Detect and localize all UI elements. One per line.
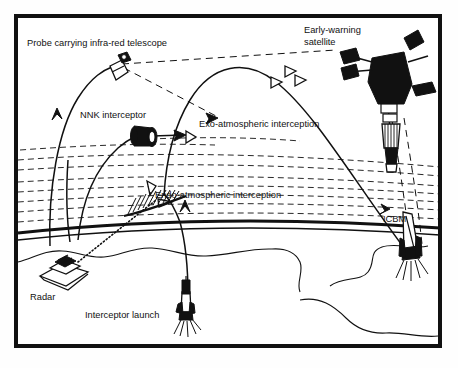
label-radar: Radar: [30, 292, 55, 302]
nnk-interceptor: [131, 126, 158, 147]
label-probe: Probe carrying infra-red telescope: [27, 38, 167, 48]
label-satellite-line2: satellite: [304, 37, 336, 47]
label-exo-interception: Exo-atmospheric interception: [199, 119, 319, 129]
missile-defence-diagram: Probe carrying infra-red telescope NNK i…: [0, 0, 458, 368]
diagram-canvas: Probe carrying infra-red telescope NNK i…: [0, 0, 458, 368]
label-interceptor-launch: Interceptor launch: [85, 310, 159, 320]
label-satellite-line1: Early-warning: [304, 25, 361, 35]
label-endo-interception: Endo-atmospheric interception: [155, 190, 281, 200]
label-nnk-interceptor: NNK interceptor: [80, 110, 146, 120]
label-icbm: ICBM: [383, 214, 406, 224]
